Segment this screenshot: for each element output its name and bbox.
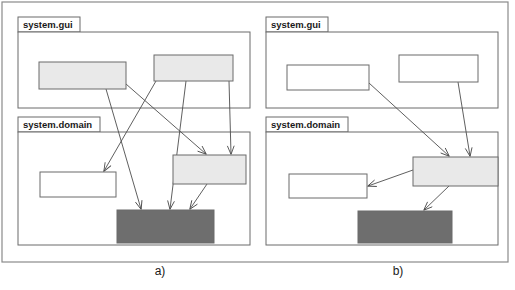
class-box-b-dom-light — [413, 157, 498, 186]
panel-caption-panel-a: a) — [155, 264, 166, 278]
class-box-a-gui-left — [39, 62, 126, 89]
panel-caption-panel-b: b) — [393, 264, 404, 278]
uml-package-diagram: system.guisystem.domaina)system.guisyste… — [0, 0, 515, 290]
class-box-a-dom-light — [173, 155, 246, 184]
class-box-b-dom-dark — [358, 211, 452, 243]
class-box-b-gui-right — [399, 55, 478, 82]
class-box-a-gui-right — [154, 55, 233, 81]
class-box-b-dom-white — [289, 174, 367, 198]
package-name-label: system.gui — [271, 19, 321, 30]
package-name-label: system.gui — [23, 19, 73, 30]
diagram-canvas: system.guisystem.domaina)system.guisyste… — [0, 0, 515, 290]
class-box-a-dom-white — [40, 172, 116, 197]
package-name-label: system.domain — [271, 119, 340, 130]
class-box-b-gui-left — [287, 65, 369, 90]
class-box-a-dom-dark — [117, 210, 214, 243]
package-name-label: system.domain — [23, 119, 92, 130]
